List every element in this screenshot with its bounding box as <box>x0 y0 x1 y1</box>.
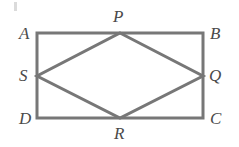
label-S: S <box>19 67 28 84</box>
rhombus-pqrs <box>37 33 203 118</box>
label-Q: Q <box>209 67 221 84</box>
rectangle-abcd <box>37 33 203 118</box>
label-A: A <box>19 25 29 42</box>
label-P: P <box>113 8 123 25</box>
label-D: D <box>19 110 31 127</box>
label-R: R <box>114 125 124 142</box>
scan-artifact-top-left <box>14 2 17 11</box>
label-C: C <box>210 110 221 127</box>
geometry-figure: A B C D P Q S R <box>0 0 239 147</box>
label-B: B <box>210 25 220 42</box>
